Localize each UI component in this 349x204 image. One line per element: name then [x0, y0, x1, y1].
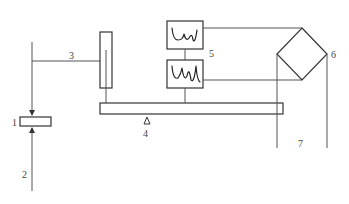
schematic-diagram: 1 2 3 4 5 6 7 — [0, 0, 349, 204]
target-block-1 — [20, 117, 51, 126]
vertical-element — [100, 32, 112, 103]
label-6: 6 — [331, 49, 336, 60]
output-leads-7 — [277, 54, 327, 148]
label-3: 3 — [69, 50, 74, 61]
waveform-box-top — [167, 21, 203, 49]
label-2: 2 — [22, 169, 27, 180]
waveform-box-bottom — [167, 60, 203, 88]
bridge-diamond-6 — [277, 28, 327, 80]
balance-beam-4 — [100, 103, 283, 124]
label-1: 1 — [12, 117, 17, 128]
label-4: 4 — [143, 128, 148, 139]
label-7: 7 — [298, 138, 303, 149]
label-5: 5 — [209, 48, 214, 59]
fulcrum-icon — [144, 117, 150, 124]
